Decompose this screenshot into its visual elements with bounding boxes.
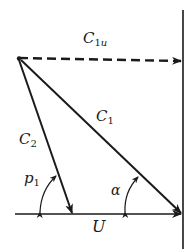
p1-angle-arc bbox=[40, 176, 56, 212]
c1-label: C1 bbox=[96, 109, 114, 126]
alpha-label: α bbox=[111, 183, 120, 197]
u-label: U bbox=[92, 219, 105, 235]
c2-label: C2 bbox=[19, 132, 37, 149]
p1-label: p1 bbox=[24, 171, 40, 188]
c1u-dashed-arrow bbox=[19, 58, 181, 61]
c1u-label: C1u bbox=[83, 31, 107, 48]
velocity-triangle-diagram: C1u C1 C2 p1 α U bbox=[0, 0, 196, 249]
alpha-angle-arc bbox=[125, 177, 138, 212]
